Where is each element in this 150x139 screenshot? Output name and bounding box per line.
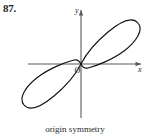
- figure-container: 87. y x O origin symmetry: [0, 0, 150, 139]
- coordinate-plot: y x O: [0, 0, 150, 122]
- y-axis-label: y: [74, 6, 79, 15]
- x-axis-label: x: [137, 65, 142, 74]
- axes-group: [28, 10, 141, 118]
- figure-caption: origin symmetry: [0, 124, 150, 135]
- y-axis-arrow-icon: [79, 10, 83, 16]
- origin-label: O: [75, 66, 81, 75]
- plot-area: y x O: [0, 0, 150, 122]
